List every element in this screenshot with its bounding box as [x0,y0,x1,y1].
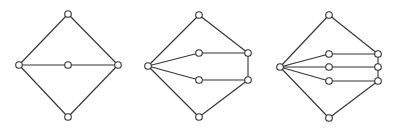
graph-3 [277,12,382,122]
edge-bottom-right-3 [329,81,378,118]
node-mid-1 [326,51,333,58]
node-mid-1 [196,50,203,57]
graph-1 [16,11,122,121]
edge-left-bottom [19,65,68,117]
node-right [115,62,122,69]
node-bottom [326,115,333,122]
edge-left-bottom [280,67,329,118]
edge-left-bottom [148,66,199,117]
node-right-1 [375,51,382,58]
node-mid-3 [326,78,333,85]
edge-left-top [280,15,329,67]
edge-top-right [68,14,118,65]
node-right-2 [245,77,252,84]
edge-top-right-1 [199,15,248,53]
diagram-canvas [0,0,397,129]
edge-left-mid-1 [280,54,329,67]
node-top [196,12,203,19]
node-right-1 [245,50,252,57]
node-mid-2 [326,64,333,71]
node-mid-2 [196,77,203,84]
edge-left-top [19,14,68,65]
node-right-2 [375,64,382,71]
node-top [65,11,72,18]
node-mid-1 [65,62,72,69]
node-left [277,64,284,71]
edge-left-mid-1 [148,53,199,66]
graph-2 [145,12,252,121]
edge-top-right-1 [329,15,378,54]
edge-bottom-right [68,65,118,117]
edge-left-top [148,15,199,66]
node-bottom [65,114,72,121]
node-left [145,63,152,70]
node-right-3 [375,78,382,85]
node-left [16,62,23,69]
edge-bottom-right-2 [199,80,248,117]
node-top [326,12,333,19]
node-bottom [196,114,203,121]
